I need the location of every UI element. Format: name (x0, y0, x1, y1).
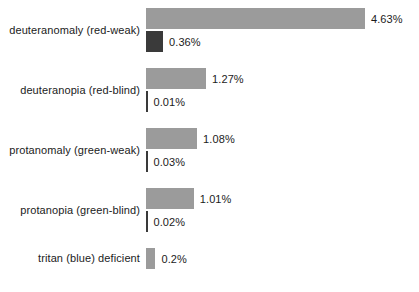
category-label: deuteranomaly (red-weak) (0, 24, 140, 37)
value-label: 1.01% (200, 193, 232, 205)
secondary-bar (146, 91, 148, 112)
value-label: 0.01% (154, 96, 186, 108)
value-label: 0.03% (154, 156, 186, 168)
bar-stack: 4.63%0.36% (146, 8, 403, 52)
bar-row: 0.2% (146, 248, 187, 269)
chart-group: protanomaly (green-weak)1.08%0.03% (0, 128, 419, 172)
chart-group: protanopia (green-blind)1.01%0.02% (0, 188, 419, 232)
bar-chart: deuteranomaly (red-weak)4.63%0.36%deuter… (0, 8, 419, 269)
bar-row: 1.27% (146, 68, 244, 89)
value-label: 4.63% (371, 13, 403, 25)
bar-stack: 0.2% (146, 248, 187, 269)
value-label: 0.2% (161, 253, 186, 265)
primary-bar (146, 188, 194, 209)
primary-bar (146, 248, 155, 269)
category-label: protanomaly (green-weak) (0, 144, 140, 157)
secondary-bar (146, 31, 163, 52)
chart-group: tritan (blue) deficient0.2% (0, 248, 419, 269)
bar-row: 0.36% (146, 31, 403, 52)
category-label: deuteranopia (red-blind) (0, 84, 140, 97)
bar-row: 0.03% (146, 151, 235, 172)
bar-row: 0.01% (146, 91, 244, 112)
category-label: tritan (blue) deficient (0, 252, 140, 265)
chart-group: deuteranomaly (red-weak)4.63%0.36% (0, 8, 419, 52)
bar-row: 0.02% (146, 211, 231, 232)
bar-stack: 1.08%0.03% (146, 128, 235, 172)
bar-row: 1.08% (146, 128, 235, 149)
bar-row: 4.63% (146, 8, 403, 29)
value-label: 0.02% (154, 216, 186, 228)
category-label: protanopia (green-blind) (0, 204, 140, 217)
value-label: 0.36% (169, 36, 201, 48)
secondary-bar (146, 151, 148, 172)
chart-canvas: deuteranomaly (red-weak)4.63%0.36%deuter… (0, 0, 419, 292)
primary-bar (146, 8, 365, 29)
bar-stack: 1.27%0.01% (146, 68, 244, 112)
value-label: 1.08% (203, 133, 235, 145)
bar-row: 1.01% (146, 188, 231, 209)
primary-bar (146, 68, 206, 89)
value-label: 1.27% (212, 73, 244, 85)
primary-bar (146, 128, 197, 149)
bar-stack: 1.01%0.02% (146, 188, 231, 232)
chart-group: deuteranopia (red-blind)1.27%0.01% (0, 68, 419, 112)
secondary-bar (146, 211, 148, 232)
